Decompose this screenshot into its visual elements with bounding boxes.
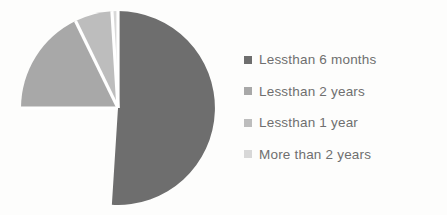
- chart-legend: Lessthan 6 months Lessthan 2 years Lesst…: [244, 44, 444, 170]
- legend-item-label: Lessthan 2 years: [259, 85, 365, 99]
- legend-item-label: Lessthan 6 months: [259, 53, 376, 67]
- legend-swatch-icon: [244, 119, 252, 127]
- legend-item-more-than-2-years: More than 2 years: [244, 139, 444, 171]
- pie-chart-figure: Lessthan 6 months Lessthan 2 years Lesst…: [0, 0, 447, 215]
- legend-swatch-icon: [244, 56, 252, 64]
- legend-item-label: Lessthan 1 year: [259, 116, 358, 130]
- legend-item-less-than-2-years: Lessthan 2 years: [244, 76, 444, 108]
- pie-svg: [21, 11, 215, 205]
- legend-item-less-than-1-year: Lessthan 1 year: [244, 107, 444, 139]
- legend-item-label: More than 2 years: [259, 148, 371, 162]
- legend-swatch-icon: [244, 150, 252, 158]
- legend-swatch-icon: [244, 87, 252, 95]
- pie-chart-graphic: [21, 11, 215, 205]
- legend-item-less-than-6-months: Lessthan 6 months: [244, 44, 444, 76]
- pie-slice-less-than-6-months: [112, 11, 215, 205]
